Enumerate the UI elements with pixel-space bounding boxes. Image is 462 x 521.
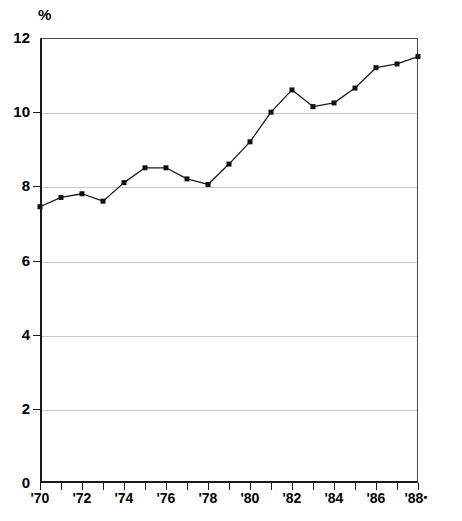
data-point	[269, 110, 274, 115]
data-point	[416, 54, 421, 59]
data-point	[101, 199, 106, 204]
data-point	[185, 176, 190, 181]
data-point	[59, 195, 64, 200]
y-axis-tick	[33, 409, 40, 410]
data-point	[374, 65, 379, 70]
data-point	[248, 139, 253, 144]
series-layer	[0, 0, 462, 521]
y-axis-tick	[33, 186, 40, 187]
data-point	[122, 180, 127, 185]
data-line	[40, 57, 418, 207]
line-chart: % 024681012 '70'72'74'76'78'80'82'84'86'…	[0, 0, 462, 521]
data-point	[353, 86, 358, 91]
data-point	[164, 165, 169, 170]
data-point	[290, 87, 295, 92]
y-axis-tick	[33, 261, 40, 262]
y-axis-tick	[33, 112, 40, 113]
y-axis-tick	[33, 335, 40, 336]
data-point	[206, 182, 211, 187]
data-point	[311, 104, 316, 109]
data-point	[80, 191, 85, 196]
data-markers	[38, 54, 421, 209]
data-point	[395, 61, 400, 66]
data-point	[143, 165, 148, 170]
data-point	[227, 162, 232, 167]
data-point	[38, 204, 43, 209]
data-point	[332, 100, 337, 105]
